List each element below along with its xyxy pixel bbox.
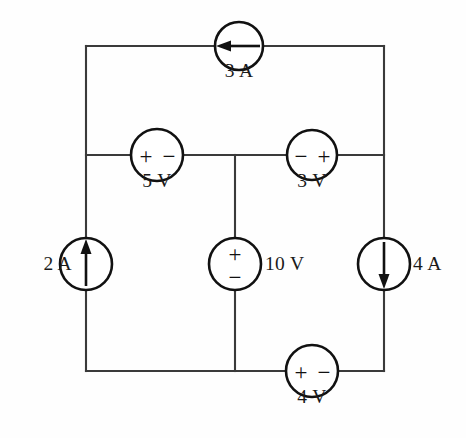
label-4v: 4 V bbox=[297, 386, 326, 408]
polarity-sign-minus-5v: − bbox=[163, 144, 176, 169]
polarity-sign-minus-4v: − bbox=[318, 360, 331, 385]
circuit-diagram: + − − + + − + − 3 A 2 A 4 A 5 V 3 V 10 V… bbox=[0, 0, 466, 438]
polarity-sign-plus-5v: + bbox=[140, 144, 153, 169]
source-center-voltage-10v: + − bbox=[209, 238, 261, 290]
label-3v: 3 V bbox=[297, 170, 326, 192]
label-4a: 4 A bbox=[413, 253, 442, 275]
source-right-current-4a bbox=[358, 238, 410, 290]
polarity-sign-plus-10v: + bbox=[229, 242, 242, 267]
polarity-sign-plus-3v: + bbox=[318, 144, 331, 169]
polarity-sign-minus-3v: − bbox=[295, 144, 308, 169]
label-10v: 10 V bbox=[265, 253, 304, 275]
polarity-sign-plus-4v: + bbox=[295, 360, 308, 385]
polarity-sign-minus-10v: − bbox=[229, 265, 242, 290]
wire-group bbox=[86, 46, 384, 371]
label-3a: 3 A bbox=[225, 60, 254, 82]
label-2a: 2 A bbox=[43, 253, 72, 275]
label-5v: 5 V bbox=[142, 170, 171, 192]
